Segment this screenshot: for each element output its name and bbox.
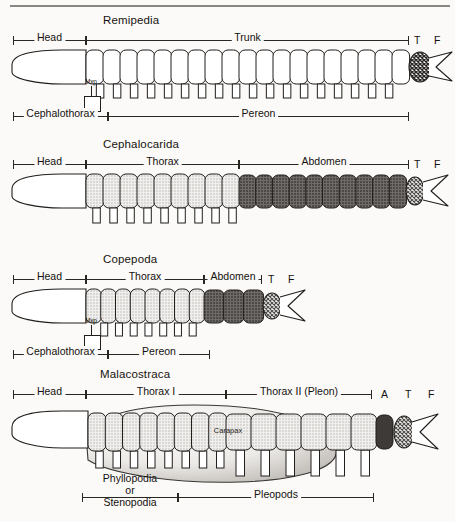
bracket-thorax2-malacostraca: Thorax II (Pleon): [226, 390, 372, 399]
body-segment: [192, 413, 210, 451]
body-segment: [140, 413, 158, 451]
body-segment: [392, 50, 410, 84]
bracket-head-remipedia: Head: [13, 36, 86, 45]
appendage: [160, 323, 167, 336]
appendage: [115, 323, 122, 336]
body-segment: [120, 50, 138, 84]
body-segment: [120, 174, 138, 208]
bracket-abdomen-copepoda: Abdomen: [204, 275, 262, 284]
appendage: [215, 84, 223, 98]
body-segment: [175, 289, 190, 323]
malacostraca-body-drawing: Carapax: [0, 400, 455, 505]
appendage: [174, 323, 181, 336]
taxon-title-copepoda: Copepoda: [103, 253, 157, 265]
mxp-label-copepoda: Mxp: [85, 317, 97, 324]
body-segment: [145, 289, 160, 323]
panel-remipedia: Remipedia Head Trunk T F: [0, 0, 455, 130]
body-segment: [105, 413, 123, 451]
letter-telson-malacostraca: T: [405, 388, 411, 400]
body-segment: [101, 289, 116, 323]
bracket-label: Thorax: [126, 271, 165, 281]
body-segment: [188, 50, 206, 84]
appendage: [148, 451, 156, 468]
body-segment: [137, 174, 155, 208]
bracket-label: Head: [34, 32, 65, 42]
bracket-label: Pereon: [139, 346, 179, 356]
body-segment: [171, 50, 189, 84]
body-segment: [224, 290, 244, 323]
body-segment: [116, 289, 131, 323]
body-segment: [88, 413, 106, 451]
body-segment: [389, 175, 406, 208]
body-segment: [251, 414, 277, 450]
body-segment: [273, 50, 291, 84]
body-segment: [205, 174, 223, 208]
bracket-thorax-cephalocarida: Thorax: [86, 160, 239, 169]
appendage: [130, 451, 138, 468]
body-segment: [189, 289, 204, 323]
appendage: [300, 84, 308, 98]
body-segment: [154, 174, 172, 208]
bracket-head-copepoda: Head: [13, 275, 86, 284]
appendage: [249, 84, 257, 98]
bracket-head-cephalocarida: Head: [13, 160, 86, 169]
body-segment: [239, 175, 256, 208]
letter-telson-cephalocarida: T: [414, 158, 420, 170]
bracket-label: Cephalothorax: [23, 108, 97, 118]
body-segment: [324, 50, 342, 84]
bracket-abdomen-cephalocarida: Abdomen: [239, 160, 409, 169]
appendage: [361, 450, 370, 476]
body-segment: [373, 175, 390, 208]
letter-abdomen-malacostraca: A: [381, 388, 388, 400]
panel-copepoda: Copepoda Head Thorax Abdomen T F Mxp: [0, 245, 455, 360]
bracket-pereon-remipedia: Pereon: [108, 112, 409, 121]
appendage: [311, 450, 320, 476]
panel-cephalocarida: Cephalocarida Head Thorax Abdomen T F: [0, 130, 455, 245]
appendage: [130, 323, 137, 336]
appendage: [110, 208, 118, 223]
appendage: [283, 84, 291, 98]
body-segment: [137, 50, 155, 84]
appendage: [189, 323, 196, 336]
body-segment: [276, 414, 302, 450]
appendage: [101, 323, 108, 336]
bracket-pereon-copepoda: Pereon: [108, 350, 210, 359]
appendage: [212, 208, 220, 223]
body-segment: [290, 50, 308, 84]
appendage: [181, 84, 189, 98]
remipedia-body-drawing: [0, 48, 455, 106]
appendage: [113, 451, 121, 468]
svg-text:Carapax: Carapax: [214, 426, 243, 435]
appendage: [368, 84, 376, 98]
bracket-label: Head: [34, 386, 65, 396]
body-segment: [171, 174, 189, 208]
bracket-label: Thorax I: [134, 386, 179, 396]
body-segment: [326, 414, 352, 450]
appendage: [182, 451, 190, 468]
body-segment: [243, 290, 263, 323]
appendage: [229, 208, 237, 223]
bracket-label: Abdomen: [208, 271, 259, 281]
bracket-label: Cephalothorax: [23, 346, 97, 356]
body-segment: [356, 175, 373, 208]
appendage: [93, 208, 101, 223]
phyllopodia-line1: Phyllopodia: [82, 472, 178, 484]
appendage: [199, 451, 207, 468]
body-segment: [341, 50, 359, 84]
body-segment: [323, 175, 340, 208]
appendage: [217, 451, 225, 468]
body-segment: [130, 289, 145, 323]
copepoda-body-drawing: [0, 287, 455, 349]
bracket-label: Pleopods: [251, 489, 301, 499]
bracket-label: Trunk: [231, 32, 263, 42]
body-segment: [272, 175, 289, 208]
appendage: [96, 451, 104, 468]
body-segment: [375, 50, 393, 84]
bracket-label: Pereon: [239, 108, 279, 118]
appendage: [266, 84, 274, 98]
appendage: [261, 450, 270, 476]
letter-furca-cephalocarida: F: [434, 158, 440, 170]
appendage: [232, 84, 240, 98]
body-segment: [256, 50, 274, 84]
taxon-title-remipedia: Remipedia: [103, 14, 159, 26]
